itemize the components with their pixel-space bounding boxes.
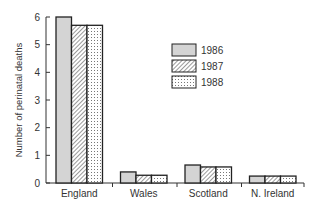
bar-n-ireland-1988	[281, 176, 297, 183]
legend-swatch-1988	[172, 76, 196, 88]
x-tick-label: N. Ireland	[251, 188, 294, 199]
legend-label-1988: 1988	[201, 77, 224, 88]
bar-england-1988	[87, 25, 103, 183]
bar-chart: 0123456EnglandWalesScotlandN. Ireland 19…	[0, 0, 320, 211]
bar-n-ireland-1987	[265, 176, 281, 183]
x-tick-label: England	[61, 188, 98, 199]
y-tick-label: 5	[34, 39, 40, 50]
y-tick-label: 2	[34, 122, 40, 133]
bar-scotland-1987	[201, 167, 217, 183]
bar-england-1987	[72, 25, 88, 183]
bar-scotland-1986	[185, 165, 201, 183]
legend: 198619871988	[172, 44, 224, 88]
legend-label-1986: 1986	[201, 45, 224, 56]
bar-england-1986	[56, 17, 72, 183]
bar-wales-1986	[121, 172, 137, 183]
y-axis-label: Number of perinatal deaths	[13, 42, 24, 157]
x-tick-label: Scotland	[189, 188, 228, 199]
legend-label-1987: 1987	[201, 61, 224, 72]
x-tick-label: Wales	[130, 188, 157, 199]
legend-swatch-1987	[172, 60, 196, 72]
bar-n-ireland-1986	[250, 176, 266, 183]
y-tick-label: 4	[34, 67, 40, 78]
bars	[56, 17, 296, 183]
y-tick-label: 0	[34, 178, 40, 189]
legend-swatch-1986	[172, 44, 196, 56]
y-tick-label: 6	[34, 12, 40, 23]
y-tick-label: 1	[34, 150, 40, 161]
bar-wales-1988	[152, 175, 168, 183]
bar-wales-1987	[136, 175, 152, 183]
y-tick-label: 3	[34, 95, 40, 106]
bar-scotland-1988	[216, 167, 232, 183]
